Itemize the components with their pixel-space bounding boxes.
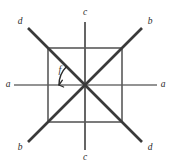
label-axis-b-topright: b	[148, 16, 153, 26]
label-axis-d-topleft: d	[18, 16, 23, 26]
label-axis-c-bottom: c	[83, 152, 88, 162]
axes-diagram: a a c c d d b b f	[0, 0, 170, 166]
label-axis-c-top: c	[83, 7, 88, 17]
label-axis-b-bottomleft: b	[18, 142, 23, 152]
diagram-canvas: a a c c d d b b f	[0, 0, 170, 166]
label-axis-d-bottomright: d	[148, 142, 153, 152]
label-axis-a-right: a	[161, 79, 166, 89]
label-axis-a-left: a	[6, 79, 11, 89]
